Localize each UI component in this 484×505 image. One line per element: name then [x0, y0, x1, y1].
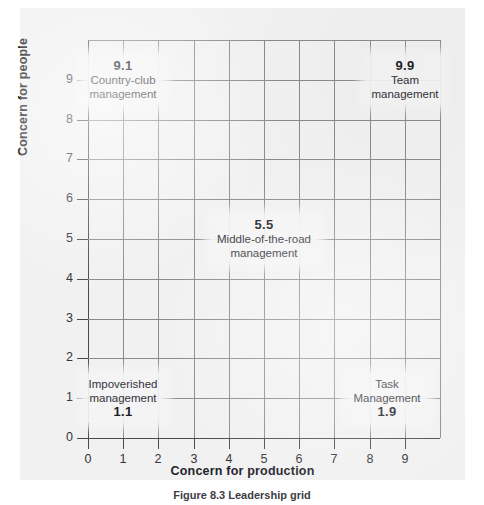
grid-style-code: 5.5	[255, 217, 274, 232]
y-tick-label-8: 8	[53, 112, 73, 126]
grid-style-name-line1: Impoverished	[88, 377, 157, 391]
y-tick-label-6: 6	[53, 191, 73, 205]
x-tick-5	[264, 438, 265, 449]
x-tick-6	[299, 438, 300, 449]
gridline-horizontal-4	[88, 279, 440, 280]
grid-style-code: 1.9	[378, 404, 397, 419]
grid-style-name-line1: Team	[371, 73, 438, 87]
grid-style-label-9-9: 9.9Teammanagement	[364, 55, 445, 105]
grid-style-label-1-9: TaskManagement1.9	[346, 373, 427, 423]
gridline-horizontal-8	[88, 120, 440, 121]
gridline-horizontal-7	[88, 159, 440, 160]
x-tick-2	[158, 438, 159, 449]
y-tick-4	[77, 279, 88, 280]
y-tick-label-9: 9	[53, 72, 73, 86]
grid-style-name-line2: Management	[353, 391, 420, 405]
x-axis-title: Concern for production	[20, 464, 465, 478]
y-tick-7	[77, 159, 88, 160]
y-tick-2	[77, 358, 88, 359]
x-tick-3	[194, 438, 195, 449]
grid-style-name-line2: management	[88, 391, 157, 405]
grid-style-code: 9.1	[114, 58, 133, 73]
grid-style-code: 9.9	[396, 58, 415, 73]
y-tick-0	[77, 438, 88, 439]
grid-style-name-line1: Middle-of-the-road	[217, 232, 311, 246]
y-tick-6	[77, 199, 88, 200]
y-tick-label-4: 4	[53, 271, 73, 285]
y-tick-label-5: 5	[53, 231, 73, 245]
y-tick-5	[77, 239, 88, 240]
x-tick-4	[229, 438, 230, 449]
x-tick-8	[370, 438, 371, 449]
grid-style-code: 1.1	[114, 404, 133, 419]
y-tick-label-1: 1	[53, 390, 73, 404]
x-tick-1	[123, 438, 124, 449]
y-tick-3	[77, 319, 88, 320]
grid-style-name-line1: Task	[353, 377, 420, 391]
grid-style-code-wrap: 1.1	[88, 405, 157, 419]
gridline-horizontal-6	[88, 199, 440, 200]
y-tick-label-7: 7	[53, 151, 73, 165]
y-tick-8	[77, 120, 88, 121]
grid-style-name-line2: management	[89, 87, 156, 101]
grid-style-name-line2: management	[217, 246, 311, 260]
y-tick-label-0: 0	[53, 430, 73, 444]
y-tick-label-2: 2	[53, 350, 73, 364]
gridline-horizontal-3	[88, 319, 440, 320]
x-tick-9	[405, 438, 406, 449]
y-tick-label-3: 3	[53, 311, 73, 325]
y-axis-title: Concern for people	[16, 38, 30, 156]
figure-panel: 012345678901234567899.1Country-clubmanag…	[20, 8, 465, 480]
gridline-horizontal-10	[88, 40, 440, 41]
grid-style-name-line1: Country-club	[89, 73, 156, 87]
grid-style-name-line2: management	[371, 87, 438, 101]
grid-style-label-1-1: Impoverishedmanagement1.1	[81, 373, 164, 423]
figure-caption: Figure 8.3 Leadership grid	[0, 489, 484, 501]
grid-style-label-9-1: 9.1Country-clubmanagement	[82, 55, 163, 105]
gridline-horizontal-2	[88, 358, 440, 359]
x-tick-7	[334, 438, 335, 449]
leadership-grid-plot: 012345678901234567899.1Country-clubmanag…	[88, 40, 440, 438]
grid-style-label-5-5: 5.5Middle-of-the-roadmanagement	[210, 214, 318, 264]
x-tick-0	[88, 438, 89, 449]
grid-style-code-wrap: 1.9	[353, 405, 420, 419]
